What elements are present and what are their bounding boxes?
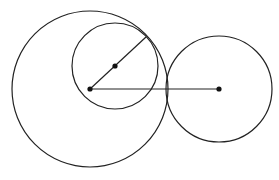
large-circle-center: [87, 86, 92, 91]
radius-segment-diagonal: [90, 37, 146, 89]
inner-circle-center: [112, 63, 117, 68]
points-group: [87, 63, 221, 91]
right-circle-center: [216, 86, 221, 91]
geometry-diagram: [0, 0, 279, 180]
